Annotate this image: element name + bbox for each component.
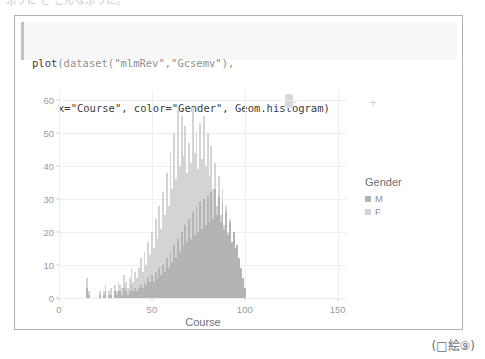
y-axis-tick-label: 60 bbox=[43, 94, 54, 105]
x-axis-tick-label: 100 bbox=[237, 304, 253, 315]
y-axis-tick-mark bbox=[56, 99, 59, 100]
legend-entries: MF bbox=[365, 193, 451, 217]
y-axis-tick-mark bbox=[56, 132, 59, 133]
y-axis-tick-label: 20 bbox=[43, 226, 54, 237]
code-block: plot(dataset("mlmRev","Gcsemv"), x="Cour… bbox=[21, 22, 457, 60]
histogram-bar bbox=[99, 295, 101, 298]
y-axis-tick-label: 0 bbox=[49, 293, 54, 304]
histogram-bars bbox=[59, 90, 347, 298]
y-axis-tick-label: 10 bbox=[43, 259, 54, 270]
legend: Gender MF bbox=[365, 176, 451, 219]
legend-entry-label: M bbox=[375, 193, 383, 204]
legend-swatch-icon bbox=[365, 196, 371, 202]
legend-swatch-icon bbox=[365, 209, 371, 215]
histogram-bar bbox=[88, 295, 90, 298]
y-axis-tick-mark bbox=[56, 231, 59, 232]
y-axis-tick-mark bbox=[56, 264, 59, 265]
x-axis-tick-label: 50 bbox=[147, 304, 158, 315]
figure-panel: plot(dataset("mlmRev","Gcsemv"), x="Cour… bbox=[14, 15, 463, 330]
gridline-horizontal bbox=[59, 298, 347, 299]
histogram-bar bbox=[105, 291, 107, 298]
y-axis-tick-mark bbox=[56, 165, 59, 166]
y-axis-tick-mark bbox=[56, 198, 59, 199]
y-axis-tick-label: 30 bbox=[43, 193, 54, 204]
x-axis-tick-label: 150 bbox=[330, 304, 346, 315]
legend-title: Gender bbox=[365, 176, 451, 188]
x-axis-tick-mark bbox=[337, 298, 338, 301]
x-axis-tick-mark bbox=[244, 298, 245, 301]
plot-axes: 0102030405060050100150 bbox=[59, 90, 347, 298]
zoom-in-icon[interactable]: + bbox=[365, 94, 381, 112]
y-axis-tick-label: 50 bbox=[43, 127, 54, 138]
top-cut-text: ふうに と こんなふうに。 bbox=[6, 0, 206, 9]
legend-entry[interactable]: M bbox=[365, 193, 451, 204]
y-axis-tick-label: 40 bbox=[43, 160, 54, 171]
plot-region: − + 0102030405060050100150 Course Gender… bbox=[21, 64, 457, 326]
x-axis-tick-mark bbox=[151, 298, 152, 301]
x-axis-tick-label: 0 bbox=[56, 304, 61, 315]
figure-caption: (□絵⑨) bbox=[432, 336, 475, 353]
legend-entry[interactable]: F bbox=[365, 206, 451, 217]
histogram-bar bbox=[244, 288, 246, 298]
x-axis-label: Course bbox=[59, 316, 347, 328]
x-axis-tick-mark bbox=[59, 298, 60, 301]
legend-entry-label: F bbox=[375, 206, 381, 217]
histogram-bar bbox=[110, 295, 112, 298]
